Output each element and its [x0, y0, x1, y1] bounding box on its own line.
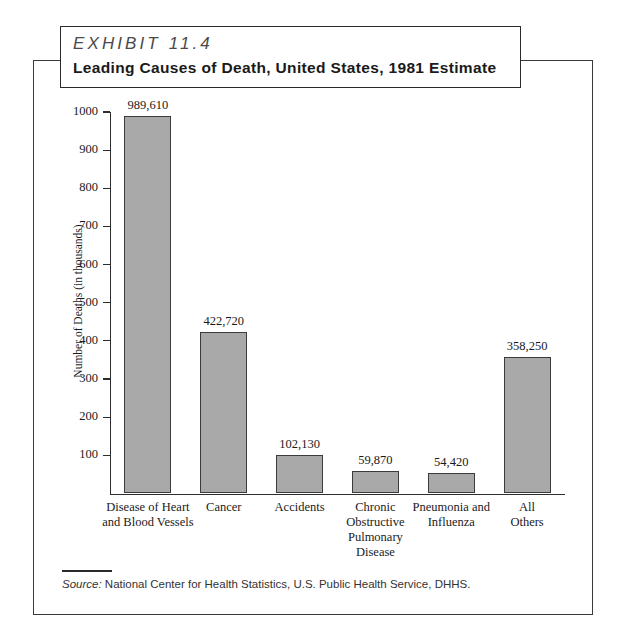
- x-category-label-line: and Blood Vessels: [93, 515, 203, 530]
- bar-value-label: 54,420: [401, 455, 501, 470]
- bar-chart: Number of Deaths (in thousands) 10020030…: [0, 0, 623, 644]
- x-category-label-line: Pulmonary: [320, 530, 430, 545]
- y-tick-label: 100: [54, 447, 98, 462]
- bar-value-label: 989,610: [98, 98, 198, 113]
- bar: [124, 116, 171, 494]
- bar-value-label: 358,250: [477, 339, 577, 354]
- exhibit-subtitle: Leading Causes of Death, United States, …: [73, 56, 520, 80]
- bar-value-label: 102,130: [250, 437, 350, 452]
- y-tick-label: 300: [54, 371, 98, 386]
- y-tick-mark: [103, 378, 110, 379]
- y-tick-mark: [103, 188, 110, 189]
- source-prefix: Source:: [62, 578, 102, 590]
- y-tick-mark: [103, 226, 110, 227]
- y-tick-label: 1000: [54, 104, 98, 119]
- bar-value-label: 422,720: [174, 314, 274, 329]
- bar: [352, 471, 399, 494]
- y-tick-mark: [103, 150, 110, 151]
- y-tick-label: 900: [54, 142, 98, 157]
- x-category-label: AllOthers: [472, 500, 582, 530]
- x-category-label-line: All: [472, 500, 582, 515]
- bar: [428, 473, 475, 494]
- bar: [276, 455, 323, 494]
- y-axis-line: [110, 112, 111, 495]
- source-text: National Center for Health Statistics, U…: [102, 578, 471, 590]
- y-tick-label: 800: [54, 180, 98, 195]
- source-note: Source: National Center for Health Stati…: [62, 578, 470, 590]
- y-tick-label: 500: [54, 295, 98, 310]
- exhibit-title-box: EXHIBIT 11.4 Leading Causes of Death, Un…: [60, 26, 521, 88]
- y-tick-label: 700: [54, 218, 98, 233]
- x-axis-line: [110, 494, 565, 495]
- y-tick-label: 200: [54, 409, 98, 424]
- exhibit-number-label: EXHIBIT 11.4: [73, 33, 520, 55]
- y-tick-label: 600: [54, 257, 98, 272]
- bar: [504, 357, 551, 494]
- x-category-label-line: Disease: [320, 545, 430, 560]
- y-tick-label: 400: [54, 333, 98, 348]
- source-rule: [62, 570, 112, 572]
- x-category-label-line: Others: [472, 515, 582, 530]
- y-tick-mark: [103, 264, 110, 265]
- y-tick-mark: [103, 302, 110, 303]
- y-tick-mark: [103, 340, 110, 341]
- y-tick-mark: [103, 455, 110, 456]
- y-tick-mark: [103, 417, 110, 418]
- bar: [200, 332, 247, 493]
